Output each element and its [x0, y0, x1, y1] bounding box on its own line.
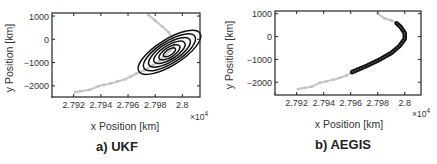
y-tick-label: 0 [267, 32, 272, 42]
caption: b) AEGIS [315, 137, 371, 152]
y-axis-label: y Position [km] [223, 21, 235, 89]
caption: a) UKF [96, 139, 138, 154]
x-tick-label: 2.792 [62, 100, 85, 110]
y-tick-label: −2000 [24, 81, 49, 91]
ukf-plot: 2.7922.7942.7962.7982.810000−1000−2000 ×… [0, 0, 218, 164]
y-tick-label: 1000 [29, 12, 49, 22]
panel-aegis: 2.7922.7942.7962.7982.810000−1000−2000 ×… [219, 0, 437, 164]
x-tick-label: 2.8 [399, 98, 412, 108]
x-multiplier: ×104 [190, 110, 208, 122]
x-axis-label: x Position [km] [315, 118, 383, 130]
x-tick-label: 2.794 [312, 98, 335, 108]
x-tick-label: 2.798 [144, 100, 167, 110]
y-tick-label: 1000 [252, 9, 272, 19]
y-tick-label: 0 [44, 35, 49, 45]
y-tick-label: −2000 [247, 78, 272, 88]
y-tick-label: −1000 [24, 58, 49, 68]
x-tick-label: 2.792 [285, 98, 308, 108]
y-tick-label: −1000 [247, 55, 272, 65]
x-multiplier: ×104 [412, 107, 430, 119]
x-tick-label: 2.796 [339, 98, 362, 108]
x-tick-label: 2.796 [117, 100, 140, 110]
x-tick-label: 2.794 [90, 100, 113, 110]
aegis-plot: 2.7922.7942.7962.7982.810000−1000−2000 ×… [219, 0, 437, 164]
x-axis-label: x Position [km] [91, 120, 159, 132]
y-axis-label: y Position [km] [3, 24, 15, 92]
x-tick-label: 2.8 [176, 100, 189, 110]
panel-ukf: 2.7922.7942.7962.7982.810000−1000−2000 ×… [0, 0, 218, 164]
x-tick-label: 2.798 [366, 98, 389, 108]
